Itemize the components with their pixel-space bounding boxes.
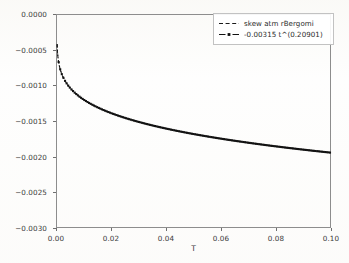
y-tick-label: 0.0000 (0, 10, 47, 19)
y-tick-mark (53, 85, 56, 86)
curve-layer (57, 15, 330, 227)
y-tick-label: −0.0030 (0, 224, 47, 233)
legend-label-0: skew atm rBergomi (244, 19, 314, 28)
figure-canvas: 0.0000−0.0005−0.0010−0.0015−0.0020−0.002… (0, 0, 349, 263)
x-tick-label: 0.10 (323, 234, 339, 243)
y-tick-mark (53, 121, 56, 122)
legend-box: skew atm rBergomi -0.00315 t^(0.20901) (213, 13, 334, 45)
y-tick-mark (53, 14, 56, 15)
x-tick-label: 0.02 (103, 234, 119, 243)
series-skew-atm-rbergomi (57, 44, 330, 152)
x-axis-label: T (56, 244, 331, 253)
legend-item-power-law-fit: -0.00315 t^(0.20901) (218, 29, 328, 40)
x-tick-mark (276, 228, 277, 231)
y-tick-label: −0.0025 (0, 188, 47, 197)
x-tick-mark (56, 228, 57, 231)
dashdot-marker-line-icon (218, 29, 240, 40)
x-tick-label: 0.04 (158, 234, 174, 243)
y-tick-mark (53, 192, 56, 193)
x-tick-mark (166, 228, 167, 231)
y-tick-mark (53, 50, 56, 51)
y-tick-mark (53, 157, 56, 158)
x-tick-mark (331, 228, 332, 231)
x-tick-label: 0.08 (268, 234, 284, 243)
y-tick-label: −0.0020 (0, 152, 47, 161)
legend-label-1: -0.00315 t^(0.20901) (244, 30, 323, 39)
x-tick-mark (221, 228, 222, 231)
series-markers (58, 61, 331, 154)
dashed-line-icon (218, 18, 240, 29)
plot-area (56, 14, 331, 228)
y-tick-label: −0.0015 (0, 117, 47, 126)
y-tick-label: −0.0010 (0, 81, 47, 90)
x-tick-mark (111, 228, 112, 231)
legend-item-skew-atm-rbergomi: skew atm rBergomi (218, 18, 328, 29)
y-tick-label: −0.0005 (0, 45, 47, 54)
x-tick-label: 0.00 (48, 234, 64, 243)
series-power-law-fit (57, 44, 330, 152)
x-tick-label: 0.06 (213, 234, 229, 243)
